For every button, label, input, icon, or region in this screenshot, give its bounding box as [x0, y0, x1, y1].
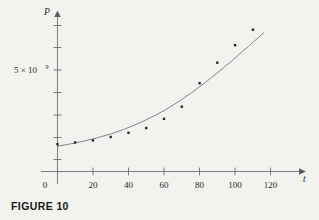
y-tick-label-5e9-exponent: 9: [46, 64, 49, 70]
x-axis-label: t: [303, 174, 306, 184]
data-point: [56, 143, 58, 145]
exponential-fit-curve: [58, 33, 265, 147]
data-point: [234, 44, 236, 46]
x-tick-label-120: 120: [264, 180, 278, 190]
data-point: [216, 62, 218, 64]
data-point: [198, 82, 200, 84]
data-point: [252, 29, 254, 31]
x-tick-label-80: 80: [195, 180, 205, 190]
population-scatter-chart: P t 5 × 10 9 0 20 40 60 80 100 120: [0, 0, 319, 220]
x-tick-label-0: 0: [43, 180, 48, 190]
data-point: [110, 136, 112, 138]
data-point-group: [56, 29, 254, 146]
y-axis-arrowhead: [54, 11, 61, 18]
data-point: [74, 141, 76, 143]
data-point: [163, 118, 165, 120]
y-axis-label: P: [43, 7, 50, 17]
data-point: [145, 127, 147, 129]
y-tick-label-5e9: 5 × 10: [14, 65, 38, 75]
x-tick-label-60: 60: [160, 180, 170, 190]
x-tick-label-40: 40: [124, 180, 134, 190]
data-point: [127, 132, 129, 134]
x-tick-label-100: 100: [228, 180, 242, 190]
x-tick-label-20: 20: [89, 180, 99, 190]
data-point: [181, 106, 183, 108]
figure-container: P t 5 × 10 9 0 20 40 60 80 100 120 FIGUR…: [0, 0, 319, 220]
data-point: [92, 139, 94, 141]
figure-caption: FIGURE 10: [11, 200, 69, 212]
